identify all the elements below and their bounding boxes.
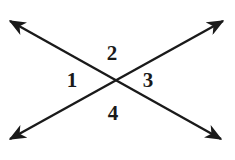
angle-label-3: 3: [137, 70, 159, 91]
angle-diagram-figure: 1 2 3 4: [0, 0, 235, 160]
angle-label-1: 1: [61, 70, 83, 91]
angle-label-4: 4: [102, 103, 124, 124]
angle-label-2: 2: [101, 43, 123, 64]
intersecting-lines-drawing: [0, 0, 235, 160]
